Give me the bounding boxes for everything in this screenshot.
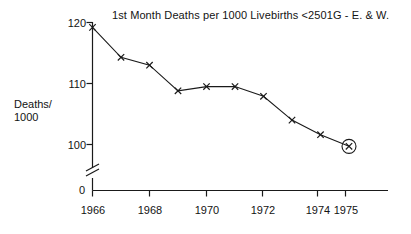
x-marker-1968: [146, 62, 152, 68]
x-marker-1975: [346, 143, 352, 149]
x-marker-1972: [260, 93, 266, 99]
data-series-line: [93, 27, 350, 146]
x-marker-1967: [118, 54, 124, 60]
x-marker-1974: [317, 132, 323, 138]
plot-area: [0, 0, 411, 234]
chart-figure: 1st Month Deaths per 1000 Livebirths <25…: [0, 0, 411, 234]
x-marker-1973: [289, 117, 295, 123]
